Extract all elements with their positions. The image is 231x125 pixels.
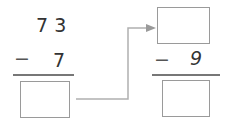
- right-answer-box[interactable]: [162, 80, 210, 117]
- right-subtrahend: 9: [190, 49, 202, 68]
- right-answer-line: [152, 74, 220, 76]
- right-minuend-box[interactable]: [157, 7, 210, 44]
- right-minus-sign: −: [154, 50, 170, 69]
- arrowhead-icon: [146, 24, 156, 32]
